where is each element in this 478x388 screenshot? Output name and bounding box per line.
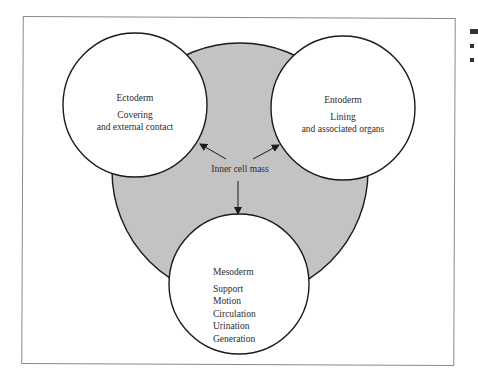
cropped-caption-fragment (470, 29, 478, 34)
inner-cell-mass-label: Inner cell mass (190, 163, 290, 176)
cropped-caption-fragment (470, 44, 474, 48)
entoderm-line-2: and associated organs (283, 123, 403, 136)
cropped-caption-fragment (470, 58, 474, 62)
mesoderm-line-3: Circulation (213, 308, 293, 321)
entoderm-title: Entoderm (283, 94, 403, 107)
ectoderm-line-2: and external contact (80, 121, 190, 134)
ectoderm-title: Ectoderm (80, 92, 190, 105)
ectoderm-label: Ectoderm Covering and external contact (80, 92, 190, 134)
mesoderm-title: Mesoderm (213, 266, 293, 279)
mesoderm-line-5: Generation (213, 333, 293, 346)
mesoderm-label: Mesoderm Support Motion Circulation Urin… (213, 266, 293, 345)
entoderm-label: Entoderm Lining and associated organs (283, 94, 403, 136)
entoderm-line-1: Lining (283, 111, 403, 124)
mesoderm-line-2: Motion (213, 295, 293, 308)
mesoderm-line-1: Support (213, 283, 293, 296)
mesoderm-line-4: Urination (213, 320, 293, 333)
ectoderm-line-1: Covering (80, 109, 190, 122)
